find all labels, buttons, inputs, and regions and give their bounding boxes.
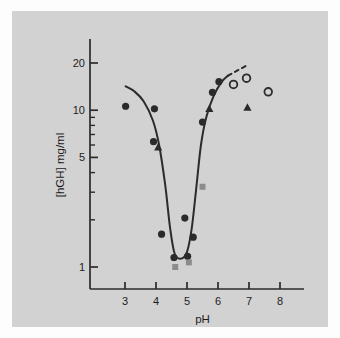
series-filled-circle	[122, 78, 223, 261]
x-axis-title: pH	[195, 313, 210, 325]
series-filled-triangle	[154, 103, 251, 150]
data-point-open-circle	[230, 81, 238, 89]
x-tick-label-5: 5	[184, 295, 190, 307]
series-open-circle	[230, 74, 272, 95]
x-tick-label-7: 7	[246, 295, 252, 307]
data-point-open-circle	[264, 88, 272, 96]
data-point-filled-triangle	[243, 103, 251, 111]
y-tick-label-20: 20	[73, 57, 85, 69]
x-tick-label-4: 4	[153, 295, 159, 307]
data-point-filled-circle	[199, 118, 206, 125]
data-point-filled-circle	[122, 103, 129, 110]
figure-container: 151020345678pH[hGH] mg/ml	[0, 0, 340, 338]
data-point-filled-circle	[190, 234, 197, 241]
y-tick-label-1: 1	[79, 261, 85, 273]
data-point-filled-circle	[181, 215, 188, 222]
fitted-solubility-curve	[126, 76, 228, 259]
data-point-filled-circle	[158, 231, 165, 238]
data-point-open-circle	[243, 74, 251, 82]
data-point-filled-triangle	[205, 104, 213, 112]
x-tick-label-8: 8	[277, 295, 283, 307]
data-point-filled-circle	[184, 253, 191, 260]
data-point-filled-circle	[209, 89, 216, 96]
data-point-filled-circle	[170, 254, 177, 261]
y-axis-title: [hGH] mg/ml	[54, 133, 66, 198]
data-point-filled-circle	[215, 78, 222, 85]
data-point-filled-circle	[151, 105, 158, 112]
plot-panel: 151020345678pH[hGH] mg/ml	[12, 11, 328, 327]
data-point-gray-square	[172, 264, 178, 270]
data-point-gray-square	[186, 259, 192, 265]
data-point-gray-square	[200, 184, 206, 190]
y-tick-label-10: 10	[73, 104, 85, 116]
y-tick-label-5: 5	[79, 151, 85, 163]
x-tick-label-6: 6	[215, 295, 221, 307]
data-point-filled-circle	[150, 138, 157, 145]
scatter-chart: 151020345678pH[hGH] mg/ml	[12, 11, 328, 327]
x-tick-label-3: 3	[122, 295, 128, 307]
